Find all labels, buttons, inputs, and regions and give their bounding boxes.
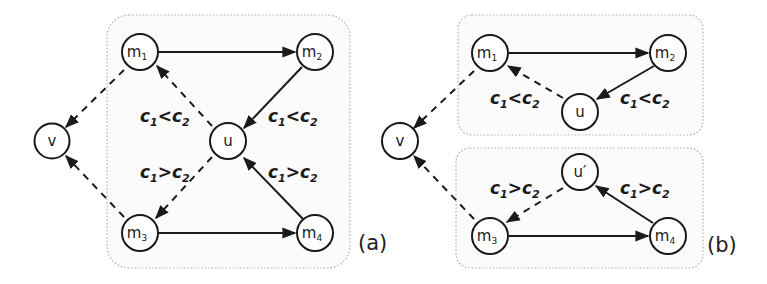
- node-b-u-prime: u′: [562, 154, 598, 190]
- svg-text:u′: u′: [574, 163, 588, 181]
- node-u: u: [210, 123, 246, 159]
- panel-a: v m1 m2 u m3 m4 c1<c2 c1<c2 c1>c2 c1>c2 …: [35, 15, 388, 268]
- node-b-m1: m1: [472, 35, 508, 71]
- node-m3: m3: [122, 215, 158, 251]
- svg-text:v: v: [396, 132, 405, 150]
- node-b-m4: m4: [650, 218, 686, 254]
- node-m1: m1: [122, 34, 158, 70]
- diagram-canvas: v m1 m2 u m3 m4 c1<c2 c1<c2 c1>c2 c1>c2 …: [0, 0, 767, 284]
- node-b-m3: m3: [472, 218, 508, 254]
- node-m4: m4: [297, 215, 333, 251]
- svg-text:u: u: [223, 132, 233, 150]
- node-m2: m2: [297, 34, 333, 70]
- node-b-u: u: [562, 94, 598, 130]
- panel-a-label: (a): [358, 231, 387, 255]
- node-v: v: [35, 124, 70, 159]
- node-b-m2: m2: [650, 35, 686, 71]
- panel-b: v m1 m2 u u′ m3 m4 c1<c2 c1<c2 c1>c2: [382, 15, 737, 268]
- svg-text:v: v: [48, 132, 57, 150]
- panel-b-label: (b): [707, 233, 737, 257]
- node-b-v: v: [382, 123, 418, 159]
- svg-text:u: u: [575, 103, 585, 121]
